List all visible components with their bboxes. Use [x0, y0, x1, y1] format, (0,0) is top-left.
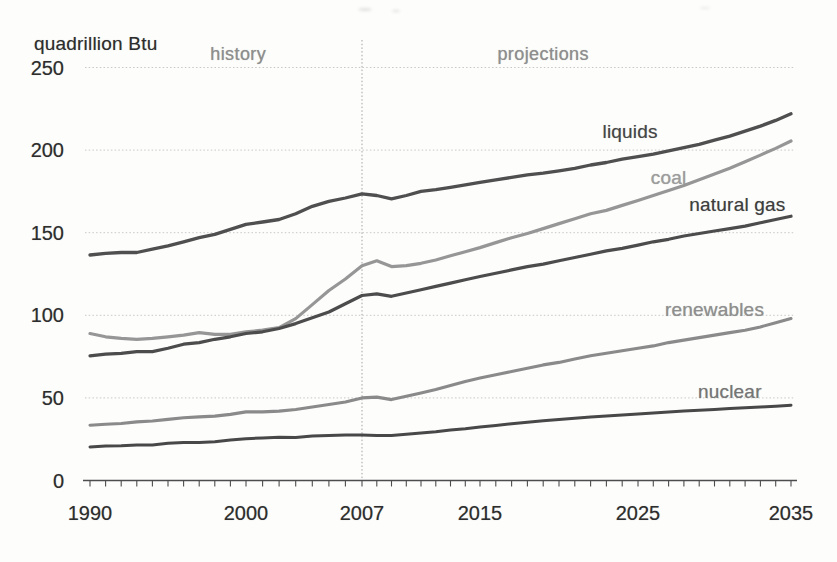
x-axis-tick-label: 2015: [458, 502, 503, 525]
series-label-renewables: renewables: [665, 299, 764, 321]
series-label-coal: coal: [651, 167, 687, 189]
scan-artifact: [392, 10, 400, 12]
series-label-natural-gas: natural gas: [689, 194, 785, 216]
scan-artifact: [358, 8, 372, 11]
x-axis-tick-label: 2025: [616, 502, 661, 525]
x-axis-tick-label: 1990: [68, 502, 113, 525]
y-axis-tick-label: 250: [26, 56, 64, 79]
scan-artifact: [700, 7, 710, 9]
energy-consumption-chart-screenshot: quadrillion Btu history projections liqu…: [0, 0, 837, 562]
y-axis-tick-label: 150: [26, 221, 64, 244]
y-axis-tick-label: 0: [26, 469, 64, 492]
y-axis-tick-label: 200: [26, 139, 64, 162]
x-axis-tick-label: 2035: [769, 502, 814, 525]
y-axis-unit-title: quadrillion Btu: [34, 33, 157, 55]
y-axis-tick-label: 50: [26, 386, 64, 409]
projections-period-label: projections: [497, 44, 588, 65]
line-chart-canvas: [0, 0, 837, 562]
series-label-liquids: liquids: [602, 121, 657, 143]
x-axis-tick-label: 2007: [340, 502, 385, 525]
x-axis-tick-label: 2000: [224, 502, 269, 525]
series-label-nuclear: nuclear: [698, 381, 762, 403]
history-period-label: history: [210, 44, 266, 65]
y-axis-tick-label: 100: [26, 304, 64, 327]
